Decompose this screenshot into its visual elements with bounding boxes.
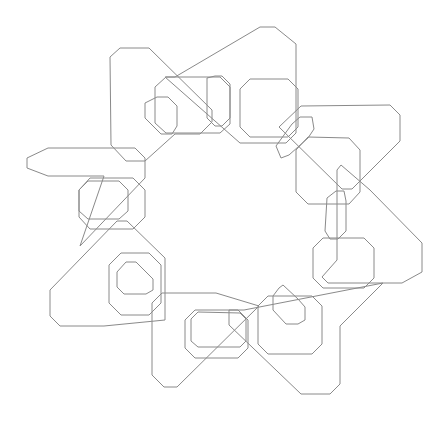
small-link-right — [325, 191, 346, 239]
small-link-bottom-right — [273, 285, 305, 324]
small-link-top-right — [276, 117, 314, 158]
small-link-left — [79, 181, 128, 219]
small-link-bottom-left — [117, 262, 153, 294]
octagon-knot-diagram — [0, 0, 447, 431]
large-shape-bottom — [152, 293, 259, 387]
medium-ring-bottom-right — [258, 296, 322, 354]
large-shape-right — [322, 165, 422, 283]
large-shape-left — [27, 148, 145, 246]
large-shape-top-right — [279, 105, 400, 189]
small-link-bottom — [191, 312, 246, 347]
medium-ring-right — [313, 238, 374, 288]
medium-shapes-group — [79, 77, 374, 358]
medium-ring-right-upper — [296, 137, 360, 204]
large-shape-bottom-right — [229, 283, 383, 394]
